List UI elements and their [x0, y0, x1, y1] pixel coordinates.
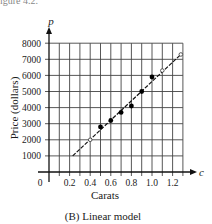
x-tick-label: 1.2	[167, 178, 179, 188]
y-tick-label: 3000	[22, 119, 41, 129]
x-axis-arrow-icon	[190, 169, 197, 175]
y-tick-label: 5000	[22, 87, 41, 97]
y-tick-label: 6000	[22, 71, 41, 81]
linear-model-chart: igure 4.2. 0.20.40.60.81.01.210002000300…	[0, 0, 212, 224]
linear-model-line	[73, 53, 183, 156]
chart-caption: (B) Linear model	[65, 210, 141, 223]
data-point	[150, 75, 155, 80]
x-axis-variable: c	[199, 166, 204, 178]
y-tick-label: 8000	[22, 39, 41, 49]
model-open-marker	[179, 53, 183, 57]
figure-header-fragment: igure 4.2.	[0, 0, 38, 6]
x-axis-title: Carats	[91, 189, 119, 201]
x-tick-label: 0.6	[105, 178, 117, 188]
y-tick-label: 4000	[22, 103, 41, 113]
grid	[45, 43, 183, 176]
model-open-marker	[161, 69, 165, 73]
data-point	[129, 104, 134, 109]
x-tick-label: 0.4	[84, 178, 96, 188]
y-tick-label: 2000	[22, 135, 41, 145]
data-point	[139, 89, 144, 94]
data-points	[98, 75, 154, 130]
x-tick-label: 0.2	[64, 178, 76, 188]
data-point	[98, 125, 103, 130]
y-tick-label: 7000	[22, 55, 41, 65]
y-axis-title: Price (dollars)	[8, 76, 21, 139]
model-open-marker	[88, 138, 92, 142]
y-tick-label: 1000	[22, 151, 41, 161]
y-axis-arrow-icon	[46, 27, 52, 34]
axes	[38, 27, 197, 182]
x-tick-label: 0.8	[125, 178, 137, 188]
x-tick-label: 1.0	[146, 178, 158, 188]
y-axis-variable: p	[47, 15, 54, 27]
data-point	[119, 110, 124, 115]
origin-label: 0	[38, 178, 43, 188]
data-point	[108, 118, 113, 123]
